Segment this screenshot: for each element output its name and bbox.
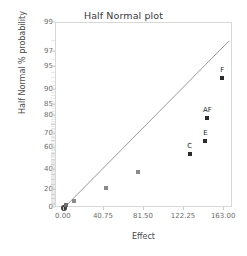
data-point bbox=[72, 199, 76, 203]
data-point-label: E bbox=[203, 129, 207, 137]
x-tick-mark bbox=[103, 207, 104, 210]
x-tick-label: 163.00 bbox=[203, 212, 243, 220]
x-tick-mark bbox=[63, 207, 64, 210]
y-tick-label: 80 bbox=[31, 111, 53, 119]
y-tick-label: 0 bbox=[31, 203, 53, 211]
y-axis-ticks: 020406070808590959799 bbox=[29, 22, 53, 207]
data-point-e bbox=[203, 139, 207, 143]
y-tick-label: 20 bbox=[31, 185, 53, 193]
data-point-f bbox=[220, 76, 224, 80]
x-tick-label: 122.25 bbox=[163, 212, 203, 220]
y-tick-label: 97 bbox=[31, 47, 53, 55]
data-point-label: F bbox=[220, 66, 224, 74]
data-point-label: C bbox=[187, 142, 192, 150]
y-tick-label: 95 bbox=[31, 62, 53, 70]
plot-frame: CEAFF bbox=[55, 22, 232, 207]
data-point-c bbox=[188, 152, 192, 156]
y-tick-label: 60 bbox=[31, 143, 53, 151]
y-tick-label: 90 bbox=[31, 85, 53, 93]
x-tick-mark bbox=[143, 207, 144, 210]
x-tick-mark bbox=[183, 207, 184, 210]
y-tick-label: 40 bbox=[31, 165, 53, 173]
x-tick-label: 81.50 bbox=[123, 212, 163, 220]
half-normal-plot: Half Normal plot Half Normal % probabili… bbox=[0, 0, 247, 256]
y-tick-label: 70 bbox=[31, 129, 53, 137]
x-axis-ticks: 0.0040.7581.50122.25163.00 bbox=[55, 207, 232, 225]
plot-area: CEAFF bbox=[56, 23, 231, 206]
reference-line bbox=[64, 41, 229, 208]
x-tick-label: 0.00 bbox=[43, 212, 83, 220]
data-point-label: AF bbox=[203, 106, 212, 114]
y-axis-label: Half Normal % probability bbox=[18, 0, 27, 133]
data-point-af bbox=[205, 116, 209, 120]
x-tick-label: 40.75 bbox=[83, 212, 123, 220]
data-point bbox=[136, 170, 140, 174]
y-tick-label: 85 bbox=[31, 100, 53, 108]
y-tick-label: 99 bbox=[31, 18, 53, 26]
x-axis-label: Effect bbox=[55, 232, 232, 241]
x-tick-mark bbox=[223, 207, 224, 210]
data-point bbox=[104, 186, 108, 190]
